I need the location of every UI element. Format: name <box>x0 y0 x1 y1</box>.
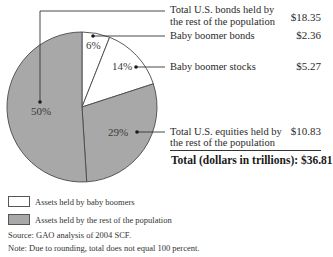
label-rest-equities-line2: the rest of the population <box>170 137 275 149</box>
pie-slices <box>7 32 157 182</box>
label-rest-equities-line1: Total U.S. equities held by <box>170 126 282 138</box>
value-rest-equities: $10.83 <box>291 125 321 137</box>
source-note: Source: GAO analysis of 2004 SCF. <box>8 230 131 240</box>
dot-rest-equities <box>135 130 139 134</box>
label-boomer-stocks: Baby boomer stocks <box>170 61 256 73</box>
dot-boomer-stocks <box>134 65 138 69</box>
dot-boomer-bonds <box>91 34 95 38</box>
label-boomer-bonds: Baby boomer bonds <box>170 30 255 42</box>
value-boomer-bonds: $2.36 <box>296 29 321 41</box>
value-rest-bonds: $18.35 <box>291 11 321 23</box>
dot-rest-bonds <box>38 100 42 104</box>
legend-swatch-rest <box>8 214 30 225</box>
total-separator <box>170 150 321 151</box>
legend-label-rest: Assets held by the rest of the populatio… <box>35 215 172 225</box>
label-rest-bonds-line1: Total U.S. bonds held by <box>170 4 274 16</box>
pct-label-rest-equities: 29% <box>108 126 128 138</box>
pct-label-boomer-stocks: 14% <box>112 60 132 72</box>
pct-label-boomer-bonds: 6% <box>86 39 101 51</box>
value-boomer-stocks: $5.27 <box>296 60 321 72</box>
total-label: Total (dollars in trillions): $36.81 <box>171 154 333 166</box>
rounding-note: Note: Due to rounding, total does not eq… <box>8 243 199 253</box>
legend-label-boomers: Assets held by baby boomers <box>35 197 135 207</box>
pct-label-rest-bonds: 50% <box>31 105 51 117</box>
label-rest-bonds-line2: the rest of the population <box>170 16 275 28</box>
legend-swatch-boomers <box>8 196 30 207</box>
